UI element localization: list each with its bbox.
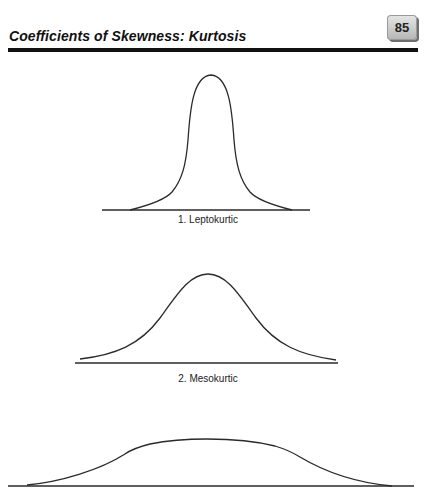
mesokurtic-figure bbox=[75, 274, 338, 363]
kurtosis-figures bbox=[0, 0, 429, 496]
leptokurtic-figure bbox=[102, 75, 310, 210]
mesokurtic-curve bbox=[80, 274, 336, 360]
mesokurtic-label: 2. Mesokurtic bbox=[178, 373, 237, 384]
leptokurtic-label: 1. Leptokurtic bbox=[178, 214, 238, 225]
platykurtic-figure bbox=[8, 439, 414, 486]
platykurtic-curve bbox=[27, 439, 392, 486]
leptokurtic-curve bbox=[130, 75, 292, 210]
